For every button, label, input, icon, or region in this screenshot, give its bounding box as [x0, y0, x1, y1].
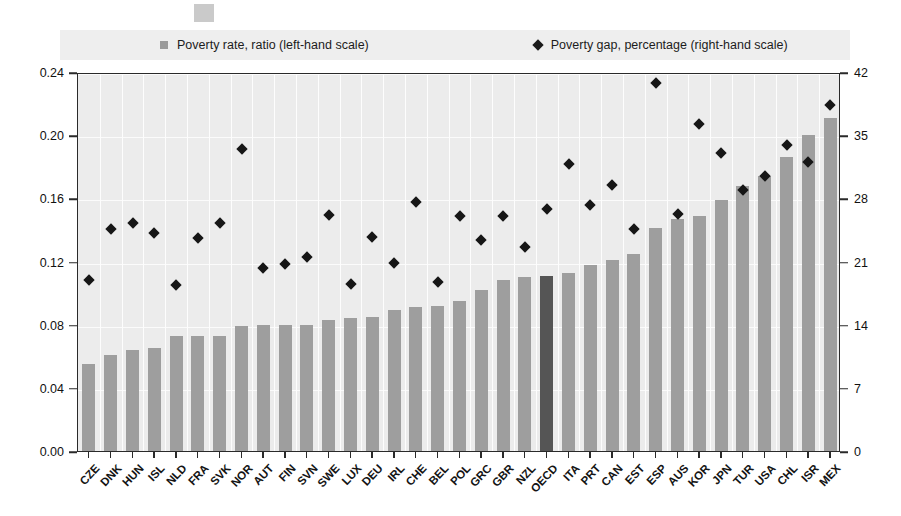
x-axis-label-can: CAN	[599, 462, 625, 488]
bar-hun	[126, 350, 139, 451]
left-axis-tick-mark	[69, 325, 77, 327]
gridline-vertical	[296, 74, 297, 451]
gridline-vertical	[514, 74, 515, 451]
x-axis-tick-mark	[132, 452, 134, 458]
x-axis-label-est: EST	[623, 462, 647, 487]
gridline-vertical	[318, 74, 319, 451]
gridline-vertical	[667, 74, 668, 451]
bar-mex	[824, 118, 837, 451]
gridline-vertical	[383, 74, 384, 451]
x-axis-tick-mark	[589, 452, 591, 458]
x-axis-tick-mark	[88, 452, 90, 458]
x-axis-label-grc: GRC	[468, 462, 494, 489]
left-axis-tick-label: 0.12	[40, 256, 64, 270]
x-axis-tick-mark	[502, 452, 504, 458]
gridline-vertical	[536, 74, 537, 451]
x-axis-label-deu: DEU	[360, 462, 385, 488]
bar-jpn	[715, 200, 728, 451]
diamond-marker-svk	[214, 217, 225, 228]
x-axis-label-pol: POL	[447, 462, 472, 487]
gridline-vertical	[143, 74, 144, 451]
square-swatch-icon	[160, 41, 168, 49]
x-axis-label-dnk: DNK	[98, 462, 124, 488]
x-axis-tick-mark	[633, 452, 635, 458]
right-axis-tick-mark	[840, 199, 848, 201]
bar-cze	[82, 364, 95, 451]
left-axis-tick-label: 0.00	[40, 445, 64, 459]
x-axis-label-prt: PRT	[579, 462, 603, 487]
bar-aus	[671, 219, 684, 451]
right-axis-tick-label: 14	[854, 319, 868, 333]
bar-dnk	[104, 355, 117, 451]
right-axis-labels: 423528211470	[848, 73, 898, 452]
x-axis-label-gbr: GBR	[490, 462, 516, 489]
bar-swe	[322, 320, 335, 451]
diamond-marker-mex	[824, 99, 835, 110]
bar-bel	[431, 306, 444, 451]
diamond-marker-fin	[279, 258, 290, 269]
gridline-vertical	[165, 74, 166, 451]
bar-can	[606, 260, 619, 451]
chart-legend: Poverty rate, ratio (left-hand scale) Po…	[60, 30, 850, 60]
x-axis-label-lux: LUX	[339, 462, 363, 487]
gridline-vertical	[492, 74, 493, 451]
right-axis-tick-mark	[840, 72, 848, 74]
diamond-marker-nzl	[519, 242, 530, 253]
left-axis-tick-mark	[69, 199, 77, 201]
gridline-vertical	[645, 74, 646, 451]
x-axis-label-nor: NOR	[228, 462, 254, 489]
gridline-vertical	[579, 74, 580, 451]
x-axis-tick-mark	[611, 452, 613, 458]
diamond-marker-nor	[236, 143, 247, 154]
bar-svn	[300, 325, 313, 451]
bar-esp	[649, 228, 662, 451]
x-axis-label-kor: KOR	[686, 462, 712, 489]
bar-nzl	[518, 277, 531, 451]
left-axis-tick-label: 0.16	[40, 192, 64, 206]
x-axis-tick-mark	[655, 452, 657, 458]
right-axis-tick-mark	[840, 325, 848, 327]
bar-isl	[148, 348, 161, 451]
x-axis-tick-mark	[742, 452, 744, 458]
x-axis-tick-mark	[524, 452, 526, 458]
diamond-marker-grc	[476, 235, 487, 246]
left-axis-tick-label: 0.20	[40, 129, 64, 143]
x-axis-label-jpn: JPN	[710, 462, 734, 487]
left-axis-labels: 0.240.200.160.120.080.040.00	[0, 73, 72, 452]
x-axis-tick-mark	[786, 452, 788, 458]
x-axis-label-aut: AUT	[251, 462, 276, 487]
bar-fra	[191, 336, 204, 451]
x-axis-tick-mark	[546, 452, 548, 458]
diamond-marker-deu	[367, 231, 378, 242]
diamond-marker-icon	[532, 39, 543, 50]
diamond-marker-lux	[345, 278, 356, 289]
x-axis-label-fin: FIN	[276, 462, 297, 484]
left-axis-tick-label: 0.04	[40, 382, 64, 396]
diamond-marker-gbr	[497, 210, 508, 221]
diamond-marker-che	[410, 197, 421, 208]
diamond-marker-est	[628, 223, 639, 234]
right-axis-tick-mark	[840, 135, 848, 137]
gridline-vertical	[732, 74, 733, 451]
x-axis-tick-mark	[459, 452, 461, 458]
diamond-marker-cze	[83, 274, 94, 285]
diamond-marker-jpn	[715, 147, 726, 158]
right-axis-tick-label: 28	[854, 192, 868, 206]
gridline-vertical	[231, 74, 232, 451]
bar-nor	[235, 326, 248, 451]
x-axis-label-usa: USA	[752, 462, 777, 488]
gridline-vertical	[100, 74, 101, 451]
gridline-vertical	[252, 74, 253, 451]
gridline-vertical	[209, 74, 210, 451]
bar-usa	[758, 176, 771, 451]
gridline-horizontal	[78, 137, 839, 138]
bar-svk	[213, 336, 226, 451]
x-axis-tick-mark	[720, 452, 722, 458]
bar-grc	[475, 290, 488, 451]
left-axis-tick-label: 0.08	[40, 319, 64, 333]
gridline-vertical	[754, 74, 755, 451]
x-axis-label-ita: ITA	[560, 462, 581, 483]
gridline-vertical	[361, 74, 362, 451]
x-axis-tick-mark	[677, 452, 679, 458]
bar-gbr	[497, 280, 510, 451]
